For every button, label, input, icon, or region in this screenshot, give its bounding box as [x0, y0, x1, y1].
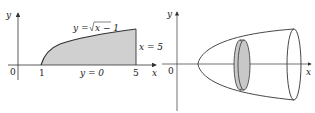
disk-slice-front	[238, 40, 250, 90]
figure-canvas: y x 0 1 5 y = x − 1 x = 5 y = 0 y x 0	[0, 0, 315, 113]
end-cap-ellipse	[287, 29, 301, 100]
y-axis-label: y	[5, 10, 12, 20]
x-axis-label: x	[152, 68, 157, 78]
y-axis-label-3d: y	[166, 9, 173, 19]
svg-text:y =: y =	[72, 23, 89, 33]
line-label-x5: x = 5	[139, 42, 163, 52]
x-axis-label-3d: x	[306, 67, 311, 77]
line-label-y0: y = 0	[79, 68, 104, 78]
curve-label: y = x − 1	[72, 22, 119, 33]
right-plot: y x 0	[162, 9, 311, 111]
origin-label: 0	[10, 67, 16, 77]
svg-text:x − 1: x − 1	[95, 23, 119, 33]
left-plot: y x 0 1 5 y = x − 1 x = 5 y = 0	[5, 10, 163, 80]
tick-5-label: 5	[133, 68, 139, 78]
origin-label-3d: 0	[168, 66, 174, 76]
tick-1-label: 1	[39, 68, 45, 78]
shaded-region	[41, 29, 136, 65]
